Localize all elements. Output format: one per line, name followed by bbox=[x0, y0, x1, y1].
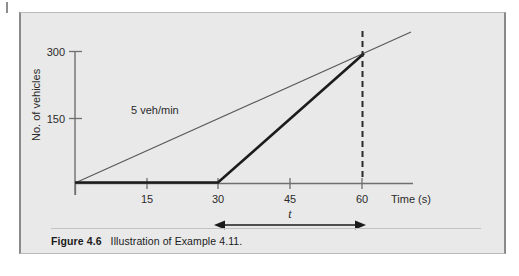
figure-caption-number: Figure 4.6 bbox=[51, 235, 102, 247]
page-edge-artifact bbox=[6, 2, 8, 13]
duration-label: t bbox=[288, 207, 292, 221]
y-axis-title: No. of vehicles bbox=[30, 68, 42, 141]
series-rate-annotation: 5 veh/min bbox=[131, 104, 179, 116]
x-tick-label-45: 45 bbox=[284, 193, 296, 205]
chart-plot-area: 300 150 No. of vehicles 15 30 45 60 Time… bbox=[21, 13, 508, 255]
x-axis-title: Time (s) bbox=[391, 193, 431, 205]
page-canvas: 300 150 No. of vehicles 15 30 45 60 Time… bbox=[0, 0, 519, 276]
figure-container: 300 150 No. of vehicles 15 30 45 60 Time… bbox=[19, 12, 506, 254]
y-tick-label-300: 300 bbox=[47, 46, 65, 58]
x-tick-label-30: 30 bbox=[212, 193, 224, 205]
figure-caption-text: Illustration of Example 4.11. bbox=[111, 235, 243, 247]
x-tick-label-15: 15 bbox=[141, 193, 153, 205]
y-tick-label-150: 150 bbox=[47, 113, 65, 125]
figure-caption: Figure 4.6Illustration of Example 4.11. bbox=[51, 235, 242, 247]
caption-divider bbox=[51, 228, 481, 229]
x-tick-label-60: 60 bbox=[356, 193, 368, 205]
